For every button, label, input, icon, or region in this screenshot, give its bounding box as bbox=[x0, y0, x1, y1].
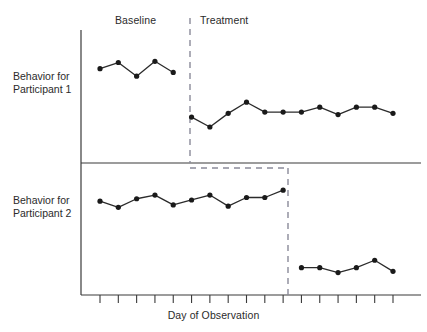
data-point bbox=[335, 270, 340, 275]
data-point bbox=[390, 269, 395, 274]
data-point bbox=[189, 197, 194, 202]
data-point bbox=[372, 258, 377, 263]
multiple-baseline-chart: Baseline Treatment Behavior for Particip… bbox=[0, 0, 427, 332]
data-line bbox=[192, 102, 393, 127]
data-point bbox=[317, 265, 322, 270]
data-point bbox=[372, 105, 377, 110]
data-point bbox=[244, 195, 249, 200]
data-point bbox=[171, 202, 176, 207]
data-point bbox=[226, 204, 231, 209]
panel-2-series bbox=[97, 188, 395, 276]
data-point bbox=[281, 188, 286, 193]
data-point bbox=[226, 111, 231, 116]
data-point bbox=[134, 74, 139, 79]
y-axis-label-participant2-line2: Participant 2 bbox=[13, 207, 71, 220]
series-treatment-panel1 bbox=[189, 100, 396, 130]
data-point bbox=[97, 66, 102, 71]
x-axis-title: Day of Observation bbox=[0, 309, 427, 321]
chart-canvas bbox=[0, 0, 427, 332]
data-series-layer bbox=[97, 59, 395, 275]
data-point bbox=[116, 205, 121, 210]
y-axis-label-participant1: Behavior for Participant 1 bbox=[13, 70, 71, 96]
data-point bbox=[299, 110, 304, 115]
y-axis-label-participant2: Behavior for Participant 2 bbox=[13, 194, 71, 220]
phase-label-treatment: Treatment bbox=[200, 14, 248, 26]
data-point bbox=[244, 100, 249, 105]
data-point bbox=[390, 111, 395, 116]
data-point bbox=[317, 105, 322, 110]
data-point bbox=[354, 105, 359, 110]
data-point bbox=[171, 70, 176, 75]
data-point bbox=[134, 196, 139, 201]
x-axis-ticks bbox=[100, 295, 393, 303]
data-line bbox=[301, 260, 393, 272]
data-point bbox=[207, 192, 212, 197]
series-baseline-panel1 bbox=[97, 59, 175, 79]
data-point bbox=[335, 112, 340, 117]
data-point bbox=[116, 60, 121, 65]
phase-label-baseline: Baseline bbox=[115, 14, 156, 26]
y-axis-label-participant2-line1: Behavior for bbox=[13, 194, 71, 207]
data-point bbox=[207, 124, 212, 129]
y-axis-label-participant1-line1: Behavior for bbox=[13, 70, 71, 83]
series-baseline-panel2 bbox=[97, 188, 285, 210]
data-point bbox=[152, 192, 157, 197]
data-point bbox=[189, 114, 194, 119]
panel-1-series bbox=[97, 59, 395, 130]
y-axis-label-participant1-line2: Participant 1 bbox=[13, 83, 71, 96]
phase-change-group bbox=[190, 18, 288, 295]
data-point bbox=[299, 265, 304, 270]
data-point bbox=[262, 195, 267, 200]
data-point bbox=[281, 110, 286, 115]
data-point bbox=[262, 110, 267, 115]
data-point bbox=[97, 199, 102, 204]
series-treatment-panel2 bbox=[299, 258, 396, 276]
data-point bbox=[354, 265, 359, 270]
data-point bbox=[152, 59, 157, 64]
